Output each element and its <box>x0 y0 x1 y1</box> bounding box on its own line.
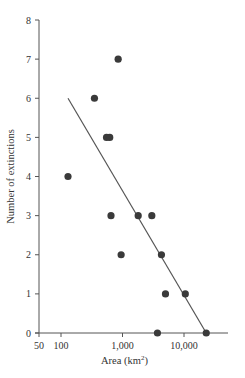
y-tick-label: 1 <box>26 288 31 299</box>
y-tick-label: 4 <box>26 171 31 182</box>
y-tick-label: 3 <box>26 210 31 221</box>
data-point <box>107 212 114 219</box>
y-tick-label: 2 <box>26 249 31 260</box>
data-point <box>64 173 71 180</box>
y-tick-label: 7 <box>26 54 31 65</box>
y-tick-label: 5 <box>26 132 31 143</box>
data-point <box>162 290 169 297</box>
x-tick-label: 50 <box>34 340 44 351</box>
x-tick-label: 100 <box>54 340 69 351</box>
data-point <box>106 134 113 141</box>
x-tick-label: 10,000 <box>170 340 198 351</box>
data-point <box>158 251 165 258</box>
y-tick-label: 0 <box>26 328 31 339</box>
data-point <box>148 212 155 219</box>
data-point <box>115 56 122 63</box>
data-point <box>118 251 125 258</box>
data-point <box>203 329 210 336</box>
x-tick-label: 1,000 <box>111 340 134 351</box>
x-axis-label: Area (km2) <box>101 354 148 367</box>
y-axis-label: Number of extinctions <box>5 129 16 223</box>
y-tick-label: 6 <box>26 93 31 104</box>
data-point <box>91 95 98 102</box>
y-tick-label: 8 <box>26 15 31 26</box>
scatter-chart: 012345678501001,00010,000Area (km2)Numbe… <box>0 0 245 378</box>
data-point <box>154 329 161 336</box>
data-point <box>182 290 189 297</box>
data-point <box>135 212 142 219</box>
